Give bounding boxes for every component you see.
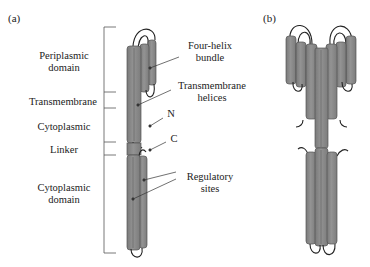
- domain-bracket: [104, 27, 116, 253]
- monomer-helices: [127, 29, 156, 257]
- dimer-helices: [286, 25, 356, 254]
- diagram-canvas: [0, 0, 370, 267]
